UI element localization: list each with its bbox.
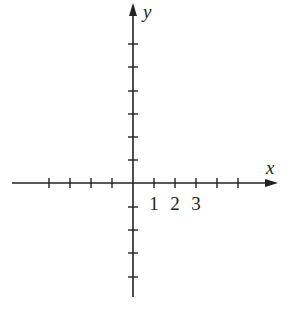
y-axis: [128, 3, 138, 297]
y-axis-arrow-icon: [129, 3, 137, 16]
x-axis-arrow-icon: [265, 179, 278, 187]
x-axis: [12, 178, 278, 188]
x-axis-label: x: [265, 157, 275, 178]
coordinate-plane: y x 1 2 3: [0, 0, 292, 313]
y-axis-label: y: [141, 1, 152, 22]
x-tick-label: 1: [149, 193, 159, 214]
x-tick-label: 3: [191, 193, 201, 214]
x-tick-label: 2: [170, 193, 180, 214]
